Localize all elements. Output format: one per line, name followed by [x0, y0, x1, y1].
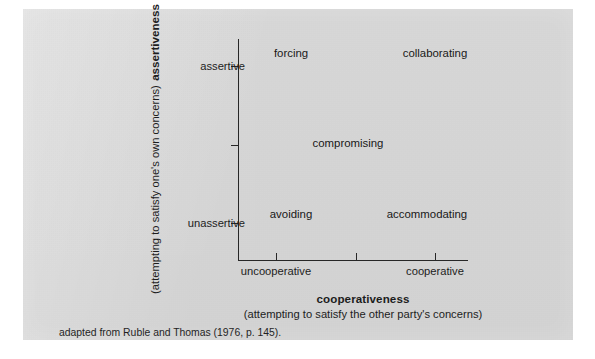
mode-label-forcing: forcing — [274, 47, 308, 59]
figure-panel: assertive unassertive uncooperative coop… — [23, 9, 573, 340]
x-axis-subtitle: (attempting to satisfy the other party's… — [244, 308, 482, 320]
x-axis-tick-label-cooperative: cooperative — [406, 265, 464, 277]
source-note: adapted from Ruble and Thomas (1976, p. … — [59, 327, 281, 338]
y-axis-subtitle: (attempting to satisfy one's own concern… — [149, 85, 161, 294]
x-axis-line — [238, 260, 468, 261]
x-axis-title: cooperativeness (attempting to satisfy t… — [244, 292, 482, 320]
x-axis-tick-middle — [356, 253, 357, 261]
y-axis-title-main: assertiveness — [148, 4, 161, 81]
mode-label-avoiding: avoiding — [270, 208, 312, 220]
y-axis-tick-middle — [231, 145, 239, 146]
x-axis-tick-uncooperative — [276, 253, 277, 261]
y-axis-title: (attempting to satisfy one's own concern… — [145, 4, 163, 294]
x-axis-tick-label-uncooperative: uncooperative — [241, 265, 311, 277]
y-axis-tick-label-assertive: assertive — [153, 60, 245, 72]
mode-label-collaborating: collaborating — [403, 47, 468, 59]
y-axis-tick-label-unassertive: unassertive — [153, 217, 245, 229]
x-axis-title-main: cooperativeness — [244, 292, 482, 305]
mode-label-accommodating: accommodating — [387, 208, 467, 220]
x-axis-tick-cooperative — [435, 253, 436, 261]
mode-label-compromising: compromising — [313, 137, 384, 149]
